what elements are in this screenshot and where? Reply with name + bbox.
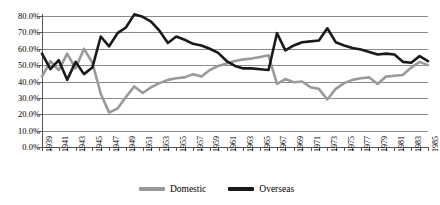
series-line-domestic [42, 49, 428, 113]
y-axis-tick [37, 147, 42, 148]
legend-swatch-domestic [139, 187, 165, 191]
y-axis-tick [37, 16, 42, 17]
chart-legend: Domestic Overseas [0, 184, 433, 194]
y-axis-tick [37, 131, 42, 132]
y-axis-tick [37, 32, 42, 33]
y-axis-tick [37, 114, 42, 115]
series-line-overseas [42, 14, 428, 80]
legend-swatch-overseas [228, 187, 254, 191]
y-axis-tick [37, 49, 42, 50]
y-axis-tick [37, 82, 42, 83]
y-axis-tick [37, 65, 42, 66]
legend-item-overseas: Overseas [228, 184, 294, 194]
legend-item-domestic: Domestic [139, 184, 206, 194]
y-axis-tick [37, 98, 42, 99]
legend-label-overseas: Overseas [259, 184, 294, 194]
legend-label-domestic: Domestic [170, 184, 206, 194]
